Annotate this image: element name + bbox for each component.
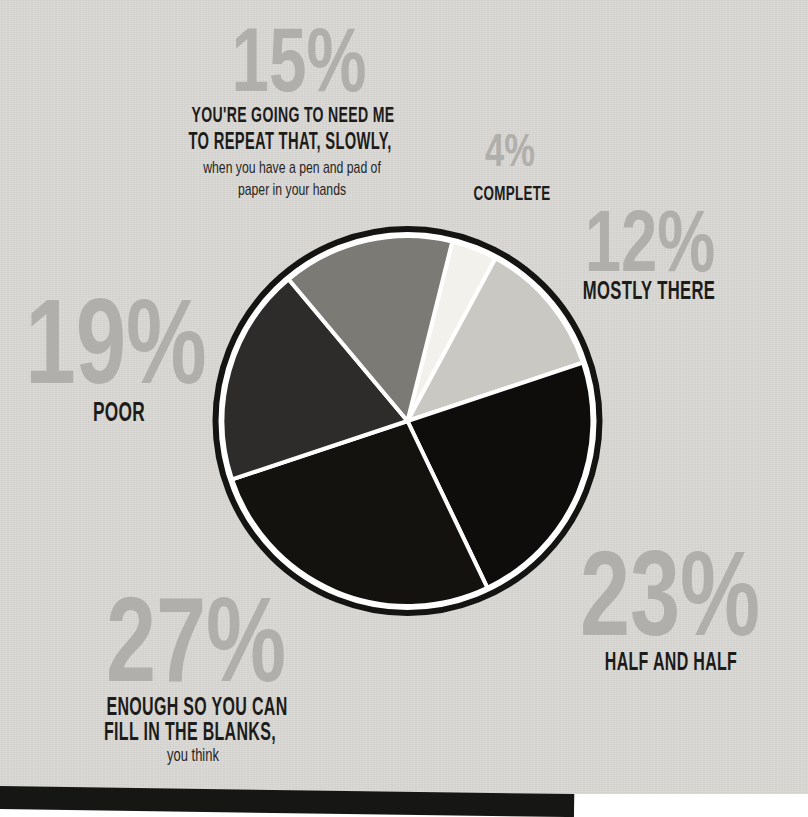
pct-12-label: MOSTLY THERE [583, 277, 715, 303]
pct-15-sublabel-line1: when you have a pen and pad of [203, 159, 381, 176]
pct-15-label-line1: YOU'RE GOING TO NEED ME [192, 104, 395, 126]
pct-23-value: 23% [580, 533, 760, 653]
pct-19-value: 19% [25, 281, 207, 402]
pct-27-sublabel: you think [167, 746, 219, 764]
pct-27-label-line1: ENOUGH SO YOU CAN [106, 694, 287, 719]
pct-4-value: 4% [485, 127, 535, 173]
pct-4-label: COMPLETE [473, 182, 550, 203]
pct-15-sublabel-line2: paper in your hands [238, 181, 346, 198]
pct-15-label-line2: TO REPEAT THAT, SLOWLY, [188, 130, 391, 153]
pct-15-value: 15% [231, 15, 366, 105]
pct-12-value: 12% [585, 197, 716, 284]
pct-23-label: HALF AND HALF [605, 649, 737, 674]
pct-19-label: POOR [93, 399, 145, 426]
pct-27-label-line2: FILL IN THE BLANKS, [104, 719, 276, 744]
pct-27-value: 27% [106, 579, 286, 699]
